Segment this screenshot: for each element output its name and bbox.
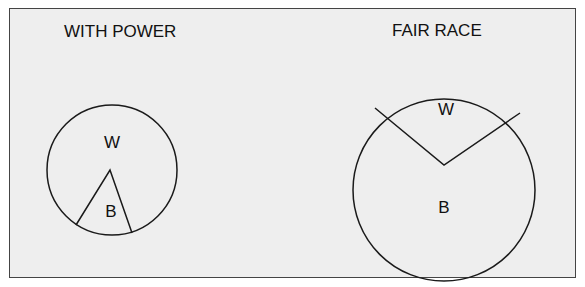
with-power-title: WITH POWER	[64, 22, 176, 42]
with-power-label-w: W	[104, 133, 120, 153]
pie-diagrams	[0, 0, 585, 287]
fair-race-title: FAIR RACE	[392, 21, 482, 41]
fair-race-pie	[353, 99, 535, 281]
fair-race-circle	[353, 99, 535, 281]
with-power-wedge-lines	[76, 170, 132, 233]
fair-race-label-w: W	[438, 100, 454, 120]
with-power-label-b: B	[105, 202, 116, 222]
fair-race-label-b: B	[438, 198, 449, 218]
